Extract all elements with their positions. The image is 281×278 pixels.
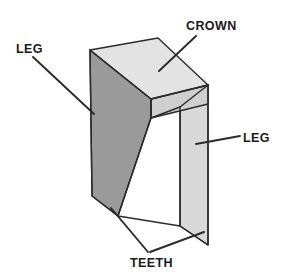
teeth-label: TEETH — [130, 256, 173, 270]
crown-label: CROWN — [186, 19, 237, 33]
right-leg-label: LEG — [243, 131, 270, 145]
left-leg-label: LEG — [16, 42, 43, 56]
diagram-canvas: CROWN LEG LEG TEETH — [0, 0, 281, 278]
teeth-right-leader-line — [150, 232, 204, 252]
staple-body — [90, 38, 208, 245]
left-leg-leader-line — [33, 57, 94, 114]
staple-anatomy-diagram: CROWN LEG LEG TEETH — [0, 0, 281, 278]
